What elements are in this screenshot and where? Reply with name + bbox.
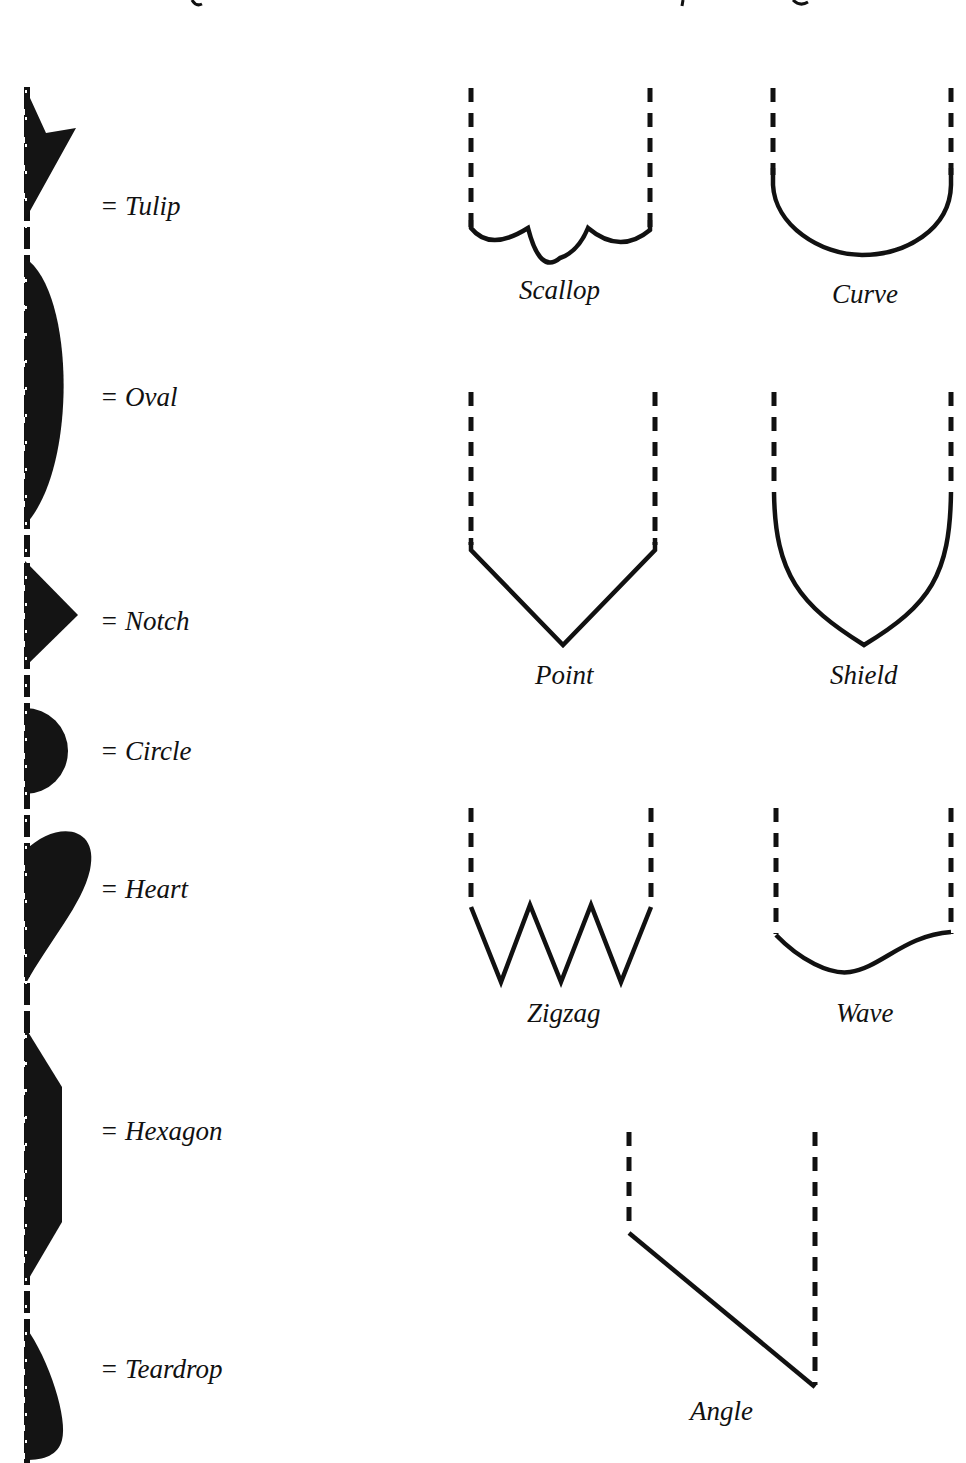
heart-shape xyxy=(25,831,91,985)
tulip-shape xyxy=(25,87,76,220)
cropped-header-fragments xyxy=(192,0,808,6)
curve-diagram: Curve xyxy=(773,88,951,309)
zigzag-diagram: Zigzag xyxy=(471,808,651,1028)
curve-label: Curve xyxy=(832,279,898,309)
point-diagram: Point xyxy=(471,392,655,690)
notch-shape xyxy=(25,561,78,667)
left-label-heart: = Heart xyxy=(100,874,189,904)
right-panel: Scallop Curve Point Shield Z xyxy=(471,88,951,1426)
left-label-circle: = Circle xyxy=(100,736,191,766)
scallop-label: Scallop xyxy=(519,275,600,305)
shield-label: Shield xyxy=(830,660,898,690)
shape-reference-diagram: = Tulip = Oval = Notch = Circle = Heart … xyxy=(0,0,966,1463)
left-label-notch: = Notch xyxy=(100,606,189,636)
hexagon-shape xyxy=(25,1027,62,1285)
zigzag-label: Zigzag xyxy=(527,998,601,1028)
teardrop-shape xyxy=(25,1326,63,1460)
shield-diagram: Shield xyxy=(774,392,951,690)
left-label-oval: = Oval xyxy=(100,382,177,412)
left-panel: = Tulip = Oval = Notch = Circle = Heart … xyxy=(25,87,223,1463)
angle-label: Angle xyxy=(688,1396,753,1426)
angle-diagram: Angle xyxy=(629,1132,815,1426)
oval-shape xyxy=(25,258,64,525)
left-label-tulip: = Tulip xyxy=(100,191,181,221)
wave-diagram: Wave xyxy=(776,808,951,1028)
left-label-hexagon: = Hexagon xyxy=(100,1116,222,1146)
scallop-diagram: Scallop xyxy=(471,88,650,305)
left-label-teardrop: = Teardrop xyxy=(100,1354,223,1384)
wave-label: Wave xyxy=(836,998,893,1028)
point-label: Point xyxy=(534,660,595,690)
circle-shape xyxy=(25,708,68,794)
